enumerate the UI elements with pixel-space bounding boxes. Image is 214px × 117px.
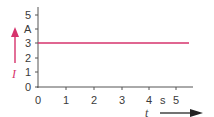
x-tick-label: 1 <box>63 94 69 106</box>
y-tick-label: 5 <box>25 9 31 21</box>
x-tick-label: 4 <box>146 94 152 106</box>
y-tick-label: 1 <box>25 66 31 78</box>
y-variable-label: I <box>11 67 17 81</box>
y-arrow-icon <box>11 27 19 63</box>
x-tick-label: 5 <box>173 94 179 106</box>
current-time-chart: 5 A 3 2 1 0 0 1 2 3 4 s 5 I t <box>0 0 214 117</box>
y-tick-label: 2 <box>25 52 31 64</box>
x-tick-label: 3 <box>119 94 125 106</box>
y-unit-label: A <box>24 23 32 35</box>
y-tick-label: 3 <box>25 37 31 49</box>
x-tick-label: 0 <box>35 94 41 106</box>
x-tick-label: 2 <box>91 94 97 106</box>
x-arrow-icon <box>160 109 203 117</box>
x-unit-label: s <box>160 94 166 106</box>
x-variable-label: t <box>145 106 149 117</box>
y-tick-label: 0 <box>25 81 31 93</box>
